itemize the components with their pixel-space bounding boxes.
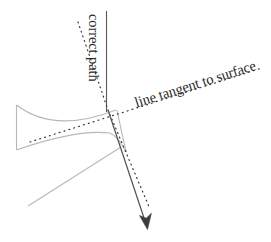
label-correct-path: correct path [87, 14, 102, 82]
surface-right-stem [117, 110, 127, 152]
path-arrow [108, 110, 151, 230]
diagram-canvas [0, 0, 271, 242]
path-arrow-shaft [108, 110, 145, 221]
path-arrow-head [140, 213, 152, 229]
diagram-figure: correct path line tangent to surface [0, 0, 271, 242]
surface-shape [17, 105, 127, 206]
surface-upper-curve [17, 105, 117, 121]
continuation-ray-dotted [108, 110, 150, 209]
surface-diagonal-edge [28, 147, 121, 206]
